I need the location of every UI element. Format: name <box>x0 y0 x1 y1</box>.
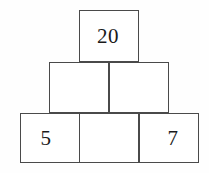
pyramid-cell-middle-0[interactable] <box>49 62 109 113</box>
pyramid-cell-bottom-0[interactable]: 5 <box>20 113 80 163</box>
pyramid-cell-value: 20 <box>97 26 119 47</box>
number-pyramid-figure: 20 5 7 <box>0 0 209 173</box>
pyramid-cell-top-0[interactable]: 20 <box>79 10 139 62</box>
pyramid-cell-bottom-1[interactable] <box>79 113 139 163</box>
pyramid-cell-middle-1[interactable] <box>109 62 169 113</box>
pyramid-cell-value: 7 <box>168 128 179 149</box>
pyramid-cell-bottom-2[interactable]: 7 <box>139 113 199 163</box>
pyramid-cell-value: 5 <box>41 128 52 149</box>
